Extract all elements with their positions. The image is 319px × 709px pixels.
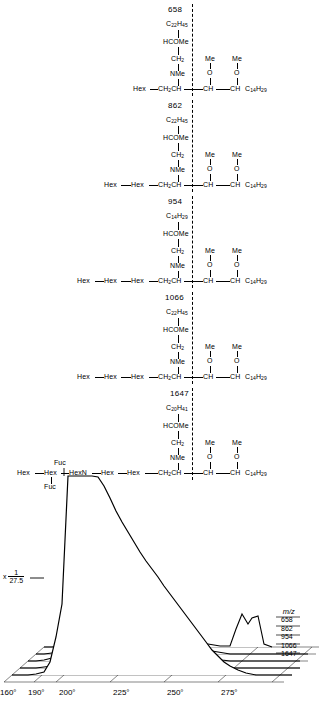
top-chain-label: C22H45 [166,116,188,124]
substituent-me-1: Me [205,343,215,350]
bond-horizontal [216,281,230,282]
bond-vertical [178,222,179,230]
legend-entry-1066: 1066 [281,642,297,651]
substituent-me-2: Me [232,247,242,254]
backbone-ch-1: CH [203,277,213,284]
structure-862: 862 C22H45 HCOMe CH2 NMe Me O Me O Hex H… [0,96,319,192]
node-ch2-label: CH2 [171,343,184,351]
fuc-peak-label: Fuc [54,459,66,466]
bond-horizontal [149,185,158,186]
legend-entry-658: 658 [281,616,297,625]
backbone-hex-1: Hex [104,181,117,188]
substituent-o-2: O [234,453,240,460]
substituent-o-2: O [234,69,240,76]
scale-annotation: x 1 27.5 [3,569,24,585]
substituent-o-1: O [207,69,213,76]
bond-vertical [237,366,238,373]
bond-horizontal [184,281,203,282]
x-tick-160: 160° [0,688,17,697]
bond-vertical [237,78,238,85]
backbone-ch-2: CH [230,373,240,380]
x-tick-250: 250° [167,688,184,697]
node-nme-label: NMe [170,454,185,461]
node-ch2-label: CH2 [171,55,184,63]
bond-horizontal [184,377,203,378]
node-hcome-label: HCOMe [163,134,189,141]
x-tick-200: 200° [59,688,76,697]
bond-vertical [178,143,179,151]
substituent-me-2: Me [232,343,242,350]
mz-legend-title: m/z [281,607,297,616]
bond-horizontal [216,89,230,90]
node-hcome-label: HCOMe [163,422,189,429]
node-nme-label: NMe [170,166,185,173]
bond-horizontal [184,185,203,186]
substituent-o-2: O [234,261,240,268]
backbone-terminal-chain: C14H29 [245,373,267,381]
figure-panel: 658 C22H45 HCOMe CH2 NMe Me O Me O Hex C… [0,0,319,709]
legend-entry-1647: 1647 [281,650,297,659]
scale-x-label: x [3,573,7,580]
top-chain-label: C22H45 [166,308,188,316]
backbone-hex-2: Hex [131,181,144,188]
substituent-me-1: Me [205,439,215,446]
x-tick-190: 190° [28,688,45,697]
substituent-me-2: Me [232,55,242,62]
structure-954: 954 C14H29 HCOMe CH2 NMe Me O Me O Hex H… [0,192,319,288]
bond-horizontal [149,377,158,378]
top-chain-label: C20H41 [166,404,188,412]
scale-numerator: 1 [8,569,24,577]
bond-horizontal [149,281,158,282]
backbone-hex-1: Hex [77,277,90,284]
legend-entry-862: 862 [281,625,297,634]
substituent-me-1: Me [205,55,215,62]
backbone-ch2ch: CH2CH [158,181,182,189]
node-nme-label: NMe [170,358,185,365]
cleavage-line [192,4,193,96]
legend-entry-954: 954 [281,633,297,642]
bond-vertical [178,30,179,38]
node-ch2-label: CH2 [171,439,184,447]
backbone-terminal-chain: C14H29 [245,277,267,285]
backbone-ch2ch: CH2CH [158,85,182,93]
backbone-hex-2: Hex [104,373,117,380]
mass-chromatogram: Fuc x 1 27.5 m/z 658 862 954 1066 1647 1… [0,466,319,709]
backbone-ch-2: CH [230,277,240,284]
bond-vertical [178,414,179,422]
bond-horizontal [121,281,131,282]
bond-horizontal [121,377,131,378]
node-nme-label: NMe [170,70,185,77]
bond-horizontal [150,89,158,90]
x-tick-275: 275° [221,688,238,697]
substituent-me-2: Me [232,439,242,446]
cleavage-line [192,100,193,192]
node-hcome-label: HCOMe [163,230,189,237]
scale-fraction: 1 27.5 [8,569,24,585]
top-chain-label: C14H29 [166,212,188,220]
structure-1066: 1066 C22H45 HCOMe CH2 NMe Me O Me O Hex … [0,288,319,384]
backbone-hex-3: Hex [131,277,144,284]
bond-horizontal [95,377,104,378]
bond-vertical [178,431,179,439]
bond-horizontal [184,89,203,90]
node-hcome-label: HCOMe [163,38,189,45]
cleavage-line [192,292,193,384]
substituent-me-1: Me [205,247,215,254]
bond-vertical [210,78,211,85]
substituent-o-1: O [207,165,213,172]
substituent-o-1: O [207,453,213,460]
bond-horizontal [121,185,131,186]
node-hcome-label: HCOMe [163,326,189,333]
backbone-hex-1: Hex [77,373,90,380]
substituent-me-2: Me [232,151,242,158]
bond-vertical [178,335,179,343]
substituent-o-2: O [234,357,240,364]
bond-vertical [178,47,179,55]
node-ch2-label: CH2 [171,151,184,159]
structure-658: 658 C22H45 HCOMe CH2 NMe Me O Me O Hex C… [0,0,319,96]
substituent-me-1: Me [205,151,215,158]
cleavage-line [192,196,193,288]
substituent-o-1: O [207,261,213,268]
backbone-hex-1: Hex [133,85,146,92]
bond-vertical [237,174,238,181]
